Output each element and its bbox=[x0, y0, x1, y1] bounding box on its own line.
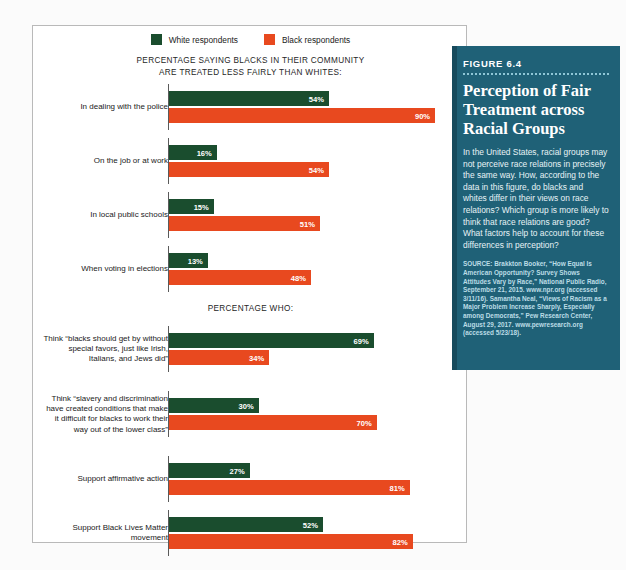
square-swatch-icon bbox=[264, 34, 275, 45]
chart-legend: White respondents Black respondents bbox=[33, 34, 468, 45]
section-heading-line: PERCENTAGE SAYING BLACKS IN THEIR COMMUN… bbox=[33, 55, 468, 67]
bar-white-respondents: 54% bbox=[169, 91, 329, 106]
bar-value-label: 48% bbox=[291, 273, 306, 282]
bar-value-label: 54% bbox=[309, 165, 324, 174]
legend-label: White respondents bbox=[169, 35, 238, 45]
bar-row-black: 48% bbox=[169, 270, 468, 285]
bar-pair: 15% 51% bbox=[169, 199, 468, 231]
bar-pair: 69% 34% bbox=[169, 333, 468, 365]
bar-black-respondents: 48% bbox=[169, 270, 311, 285]
bar-value-label: 27% bbox=[230, 466, 245, 475]
bar-group-job: On the job or at work 16% 54% bbox=[33, 138, 468, 184]
bar-row-white: 52% bbox=[169, 517, 468, 532]
bar-black-respondents: 81% bbox=[169, 480, 410, 495]
bar-row-white: 13% bbox=[169, 253, 468, 268]
bar-value-label: 15% bbox=[194, 202, 209, 211]
chart-card: White respondents Black respondents PERC… bbox=[32, 25, 467, 543]
legend-label: Black respondents bbox=[282, 35, 350, 45]
figure-caption-panel: FIGURE 6.4 Perception of Fair Treatment … bbox=[452, 46, 620, 370]
bar-value-label: 30% bbox=[238, 401, 253, 410]
bar-black-respondents: 90% bbox=[169, 108, 435, 123]
bar-pair: 27% 81% bbox=[169, 463, 468, 495]
legend-item-white-respondents: White respondents bbox=[151, 34, 238, 45]
page-background: White respondents Black respondents PERC… bbox=[0, 0, 626, 570]
bar-row-white: 27% bbox=[169, 463, 468, 478]
bar-group-label: When voting in elections bbox=[43, 264, 168, 274]
bar-row-black: 82% bbox=[169, 534, 468, 549]
bar-row-white: 54% bbox=[169, 91, 468, 106]
bar-group-police: In dealing with the police 54% 90% bbox=[33, 84, 468, 130]
bar-row-white: 16% bbox=[169, 145, 468, 160]
bar-group-label: In dealing with the police bbox=[43, 102, 168, 112]
bar-pair: 54% 90% bbox=[169, 91, 468, 123]
bar-white-respondents: 52% bbox=[169, 517, 323, 532]
bar-group-special-favors: Think “blacks should get by without spec… bbox=[33, 326, 468, 372]
bar-value-label: 70% bbox=[357, 418, 372, 427]
bar-group-label: Support Black Lives Matter movement bbox=[43, 523, 168, 543]
figure-source-citation: SOURCE: Brakkton Booker, “How Equal Is A… bbox=[463, 260, 609, 337]
bar-row-white: 30% bbox=[169, 398, 468, 413]
bar-white-respondents: 15% bbox=[169, 199, 214, 214]
bar-group-black-lives-matter: Support Black Lives Matter movement 52% … bbox=[33, 510, 468, 556]
bar-row-white: 15% bbox=[169, 199, 468, 214]
section-heading-line: ARE TREATED LESS FAIRLY THAN WHITES: bbox=[33, 67, 468, 79]
bar-black-respondents: 51% bbox=[169, 216, 320, 231]
bar-group-label: On the job or at work bbox=[43, 156, 168, 166]
section-heading-percentage-who: PERCENTAGE WHO: bbox=[33, 303, 468, 315]
bar-black-respondents: 54% bbox=[169, 162, 329, 177]
bar-white-respondents: 69% bbox=[169, 333, 374, 348]
bar-group-label: Think “slavery and discrimination have c… bbox=[43, 394, 168, 435]
bar-pair: 13% 48% bbox=[169, 253, 468, 285]
dotted-rule-divider bbox=[463, 73, 609, 75]
bar-group-affirmative-action: Support affirmative action 27% 81% bbox=[33, 456, 468, 502]
bar-value-label: 82% bbox=[392, 537, 407, 546]
bar-group-label: Think “blacks should get by without spec… bbox=[43, 334, 168, 365]
bar-black-respondents: 70% bbox=[169, 415, 377, 430]
bar-group-schools: In local public schools 15% 51% bbox=[33, 192, 468, 238]
bar-value-label: 54% bbox=[309, 94, 324, 103]
bar-group-voting: When voting in elections 13% 48% bbox=[33, 246, 468, 292]
legend-item-black-respondents: Black respondents bbox=[264, 34, 350, 45]
bar-value-label: 34% bbox=[249, 353, 264, 362]
bar-row-black: 34% bbox=[169, 350, 468, 365]
bar-value-label: 90% bbox=[415, 111, 430, 120]
bar-black-respondents: 34% bbox=[169, 350, 269, 365]
bar-value-label: 81% bbox=[389, 483, 404, 492]
bar-row-black: 51% bbox=[169, 216, 468, 231]
bar-group-label: In local public schools bbox=[43, 210, 168, 220]
bar-white-respondents: 13% bbox=[169, 253, 208, 268]
section-heading-treated-less-fairly: PERCENTAGE SAYING BLACKS IN THEIR COMMUN… bbox=[33, 55, 468, 78]
figure-title: Perception of Fair Treatment across Raci… bbox=[463, 81, 609, 138]
figure-number-label: FIGURE 6.4 bbox=[463, 58, 609, 69]
bar-value-label: 16% bbox=[197, 148, 212, 157]
bar-white-respondents: 16% bbox=[169, 145, 217, 160]
section-heading-line: PERCENTAGE WHO: bbox=[33, 303, 468, 315]
bar-white-respondents: 27% bbox=[169, 463, 250, 478]
bar-value-label: 51% bbox=[300, 219, 315, 228]
bar-row-black: 81% bbox=[169, 480, 468, 495]
bar-pair: 52% 82% bbox=[169, 517, 468, 549]
bar-value-label: 52% bbox=[303, 520, 318, 529]
figure-body-text: In the United States, racial groups may … bbox=[463, 147, 609, 251]
bar-row-black: 70% bbox=[169, 415, 468, 430]
bar-pair: 16% 54% bbox=[169, 145, 468, 177]
square-swatch-icon bbox=[151, 34, 162, 45]
bar-row-black: 90% bbox=[169, 108, 468, 123]
bar-value-label: 13% bbox=[188, 256, 203, 265]
bar-black-respondents: 82% bbox=[169, 534, 413, 549]
bar-pair: 30% 70% bbox=[169, 398, 468, 430]
bar-group-label: Support affirmative action bbox=[43, 474, 168, 484]
bar-row-black: 54% bbox=[169, 162, 468, 177]
bar-white-respondents: 30% bbox=[169, 398, 259, 413]
bar-group-slavery-discrimination: Think “slavery and discrimination have c… bbox=[33, 391, 468, 437]
bar-row-white: 69% bbox=[169, 333, 468, 348]
bar-value-label: 69% bbox=[354, 336, 369, 345]
